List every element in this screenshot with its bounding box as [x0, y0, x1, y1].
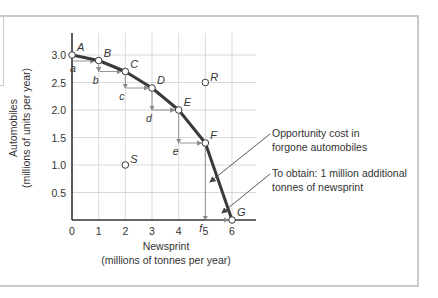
- step-label: b: [93, 74, 99, 86]
- point-label: R: [210, 71, 218, 83]
- x-tick-label: 0: [69, 225, 75, 237]
- annotation-to-obtain: To obtain: 1 million additional tonnes o…: [272, 166, 407, 194]
- y-tick-label: 0.5: [51, 187, 66, 199]
- x-tick-label: 3: [149, 225, 155, 237]
- data-point-f: [202, 140, 209, 147]
- step-label: a: [70, 62, 76, 74]
- y-axis-title: Automobiles (millions of units per year): [7, 48, 33, 208]
- data-point-s: [122, 162, 129, 169]
- x-tick-label: 4: [176, 225, 182, 237]
- point-label: G: [237, 206, 246, 218]
- y-axis-sublabel: (millions of units per year): [20, 48, 33, 208]
- point-label: F: [210, 129, 218, 141]
- annotation-opportunity-cost: Opportunity cost in forgone automobiles: [272, 126, 367, 154]
- y-tick-label: 2.0: [51, 104, 66, 116]
- point-label: S: [130, 153, 138, 165]
- leader-line-to-obtain: [222, 174, 270, 213]
- data-point-d: [149, 85, 156, 92]
- x-axis-sublabel: (millions of tonnes per year): [86, 253, 246, 267]
- x-tick-label: 5: [202, 225, 208, 237]
- y-tick-label: 3.0: [51, 49, 66, 61]
- x-tick-label: 6: [229, 225, 235, 237]
- point-label: D: [157, 74, 165, 86]
- leader-line-opportunity-cost: [210, 134, 270, 182]
- y-axis-label: Automobiles: [7, 48, 20, 208]
- data-point-g: [229, 217, 236, 224]
- step-label: e: [173, 145, 179, 157]
- data-point-r: [202, 79, 209, 86]
- x-tick-label: 2: [122, 225, 128, 237]
- point-label: A: [76, 41, 84, 53]
- y-tick-label: 1.5: [51, 132, 66, 144]
- step-label: c: [119, 90, 125, 102]
- data-point-c: [122, 68, 129, 75]
- data-point-a: [69, 52, 76, 59]
- point-label: E: [184, 96, 192, 108]
- point-label: B: [104, 47, 111, 59]
- data-point-b: [95, 57, 102, 64]
- x-tick-label: 1: [96, 225, 102, 237]
- point-label: C: [130, 58, 138, 70]
- y-tick-label: 1.0: [51, 159, 66, 171]
- data-point-e: [175, 107, 182, 114]
- x-axis-label: Newsprint: [86, 239, 246, 253]
- y-tick-label: 2.5: [51, 77, 66, 89]
